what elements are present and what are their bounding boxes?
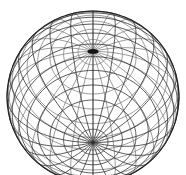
north-pole-convergence-dot [88, 49, 99, 54]
globe-figure [0, 0, 186, 175]
north-pole-icon [88, 49, 99, 54]
globe-wireframe-svg [0, 0, 186, 175]
